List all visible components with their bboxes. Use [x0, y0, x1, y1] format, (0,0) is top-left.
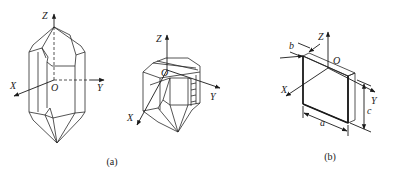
figure-canvas: Z Y X O Z Y X O [0, 0, 393, 180]
crystal-2: Z Y X O [126, 33, 220, 132]
plate: Z Y X O b a c [280, 31, 378, 136]
axis-label-x: X [126, 112, 134, 123]
caption-a: (a) [106, 156, 117, 168]
crystal-1: Z Y X O [9, 10, 104, 143]
caption-b: (b) [324, 151, 336, 163]
dimension-label-b: b [289, 40, 294, 51]
axis-label-z: Z [42, 10, 48, 21]
axis-label-z: Z [156, 33, 162, 44]
axis-label-y: Y [371, 95, 378, 106]
dimension-label-a: a [320, 117, 325, 128]
axis-label-y: Y [210, 91, 217, 102]
axis-label-y: Y [97, 82, 104, 93]
dimension-label-c: c [367, 105, 372, 116]
origin-label: O [161, 67, 168, 78]
origin-label: O [333, 55, 340, 66]
axis-label-z: Z [318, 31, 324, 42]
axis-label-x: X [280, 84, 288, 95]
axis-label-x: X [9, 80, 17, 91]
origin-label: O [51, 82, 58, 93]
